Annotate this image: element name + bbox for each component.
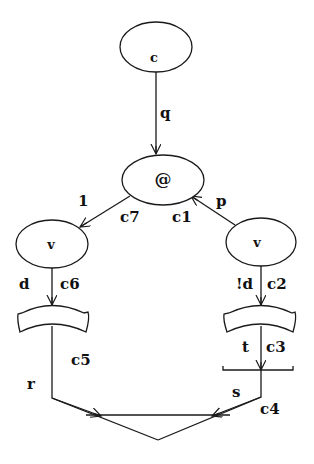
- node-v-left-label: v: [46, 237, 55, 252]
- edge-label-c6: c6: [60, 275, 80, 293]
- tray-node-left[interactable]: [18, 306, 89, 333]
- edge-bar-to-merge: [158, 370, 261, 440]
- node-v-left[interactable]: v: [16, 220, 88, 268]
- edge-label-c3: c3: [266, 338, 286, 356]
- edge-label-r: r: [27, 375, 36, 393]
- edge-label-q: q: [160, 104, 171, 122]
- edge-v-right-to-at: [191, 196, 235, 225]
- edge-label-s: s: [232, 383, 240, 401]
- edge-label-c4: c4: [260, 400, 280, 418]
- edge-label-c7: c7: [120, 208, 140, 226]
- node-c-label: c: [150, 50, 158, 65]
- edge-label-t: t: [242, 338, 249, 356]
- flow-diagram: c @ v v q 1 c7 c1 p d c6 !d c2 c5 t c3 r…: [0, 0, 314, 464]
- node-v-right-label: v: [252, 235, 261, 250]
- edge-label-c1: c1: [172, 208, 192, 226]
- edge-label-d: d: [19, 275, 30, 293]
- node-at[interactable]: @: [122, 155, 204, 205]
- node-at-label: @: [155, 169, 172, 189]
- bar-node: [223, 366, 293, 370]
- node-v-right[interactable]: v: [226, 218, 296, 266]
- edge-label-not-d: !d: [236, 275, 254, 293]
- edge-label-p: p: [216, 192, 227, 210]
- edge-label-c2: c2: [267, 275, 287, 293]
- tray-node-right[interactable]: [224, 306, 296, 333]
- edge-label-1: 1: [78, 192, 88, 210]
- edge-tray-left-to-merge: [52, 326, 158, 440]
- edge-label-c5: c5: [71, 351, 91, 369]
- node-c[interactable]: c: [120, 22, 192, 72]
